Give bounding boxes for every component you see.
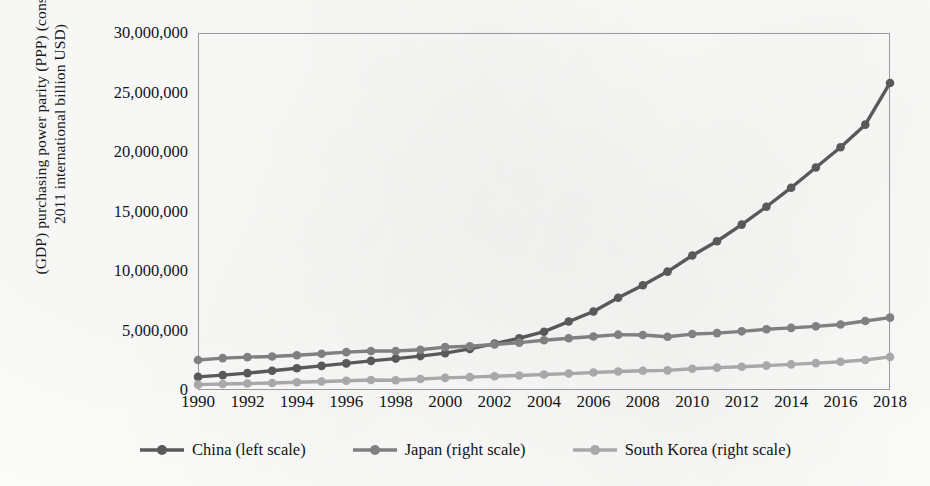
series-marker — [886, 79, 895, 88]
series-marker — [861, 356, 870, 365]
gdp-ppp-line-chart: (GDP) purchasing power parity (PPP) (con… — [0, 0, 930, 486]
series-marker — [886, 313, 895, 322]
x-axis-tick-label: 2010 — [675, 392, 709, 412]
series-marker — [268, 366, 277, 375]
series-marker — [243, 379, 252, 388]
series-marker — [466, 342, 475, 351]
series-marker — [268, 352, 277, 361]
legend-label: South Korea (right scale) — [625, 440, 791, 460]
x-axis-tick-label: 2014 — [774, 392, 808, 412]
series-marker — [490, 340, 499, 349]
series-marker — [367, 357, 376, 366]
series-marker — [762, 361, 771, 370]
series-marker — [391, 376, 400, 385]
series-marker — [317, 362, 326, 371]
x-axis-tick-label: 2018 — [873, 392, 907, 412]
x-axis-tick-label: 1998 — [379, 392, 413, 412]
series-marker — [836, 357, 845, 366]
legend-label: China (left scale) — [192, 440, 306, 460]
x-axis-tick-label: 2004 — [527, 392, 561, 412]
legend-marker-icon — [352, 442, 398, 458]
series-marker — [540, 370, 549, 379]
legend-label: Japan (right scale) — [405, 440, 526, 460]
series-marker — [639, 366, 648, 375]
series-marker — [441, 374, 450, 383]
legend-marker-icon — [139, 442, 185, 458]
series-marker — [713, 363, 722, 372]
data-series — [194, 313, 895, 364]
x-axis-tick-label: 1994 — [280, 392, 314, 412]
x-axis-tick-label: 2006 — [576, 392, 610, 412]
legend-marker-icon — [572, 442, 618, 458]
x-axis-tick-label: 2002 — [478, 392, 512, 412]
series-marker — [317, 377, 326, 386]
series-marker — [713, 329, 722, 338]
series-marker — [614, 293, 623, 302]
legend-item[interactable]: China (left scale) — [139, 440, 306, 460]
series-marker — [564, 334, 573, 343]
x-axis-tick-label: 2016 — [824, 392, 858, 412]
series-marker — [416, 375, 425, 384]
series-marker — [812, 163, 821, 172]
legend-item[interactable]: Japan (right scale) — [352, 440, 526, 460]
series-marker — [367, 376, 376, 385]
series-marker — [663, 332, 672, 341]
x-axis-tick-label: 2008 — [626, 392, 660, 412]
series-marker — [812, 322, 821, 331]
series-marker — [589, 332, 598, 341]
series-marker — [589, 307, 598, 316]
series-marker — [886, 353, 895, 362]
series-marker — [787, 324, 796, 333]
series-marker — [787, 183, 796, 192]
series-marker — [441, 343, 450, 352]
series-marker — [293, 378, 302, 387]
series-marker — [564, 317, 573, 326]
data-series — [194, 79, 895, 382]
series-marker — [787, 360, 796, 369]
series-marker — [639, 281, 648, 290]
series-marker — [688, 330, 697, 339]
series-marker — [540, 336, 549, 345]
series-marker — [268, 379, 277, 388]
legend-item[interactable]: South Korea (right scale) — [572, 440, 791, 460]
series-layer — [0, 0, 930, 486]
series-marker — [737, 327, 746, 336]
series-marker — [737, 220, 746, 229]
series-marker — [293, 351, 302, 360]
x-axis-tick-label: 1996 — [329, 392, 363, 412]
series-marker — [243, 369, 252, 378]
series-marker — [416, 345, 425, 354]
series-marker — [194, 356, 203, 365]
series-marker — [515, 338, 524, 347]
x-axis-tick-label: 2012 — [725, 392, 759, 412]
x-axis-tick-label: 1990 — [181, 392, 215, 412]
series-marker — [218, 354, 227, 363]
series-marker — [688, 251, 697, 260]
series-marker — [812, 359, 821, 368]
series-marker — [342, 348, 351, 357]
chart-legend: China (left scale)Japan (right scale)Sou… — [0, 440, 930, 460]
x-axis-tick-label: 1992 — [230, 392, 264, 412]
series-marker — [218, 380, 227, 389]
series-marker — [515, 371, 524, 380]
series-marker — [243, 353, 252, 362]
series-marker — [194, 373, 203, 382]
series-marker — [836, 320, 845, 329]
series-marker — [564, 369, 573, 378]
series-marker — [639, 331, 648, 340]
x-axis-tick-label: 2000 — [428, 392, 462, 412]
series-marker — [614, 367, 623, 376]
series-marker — [367, 347, 376, 356]
series-marker — [218, 371, 227, 380]
series-marker — [614, 330, 623, 339]
series-marker — [342, 359, 351, 368]
series-marker — [540, 327, 549, 336]
series-marker — [713, 237, 722, 246]
series-marker — [663, 267, 672, 276]
series-marker — [466, 373, 475, 382]
series-marker — [762, 325, 771, 334]
series-marker — [737, 362, 746, 371]
series-marker — [317, 349, 326, 358]
series-marker — [762, 202, 771, 211]
series-marker — [688, 364, 697, 373]
